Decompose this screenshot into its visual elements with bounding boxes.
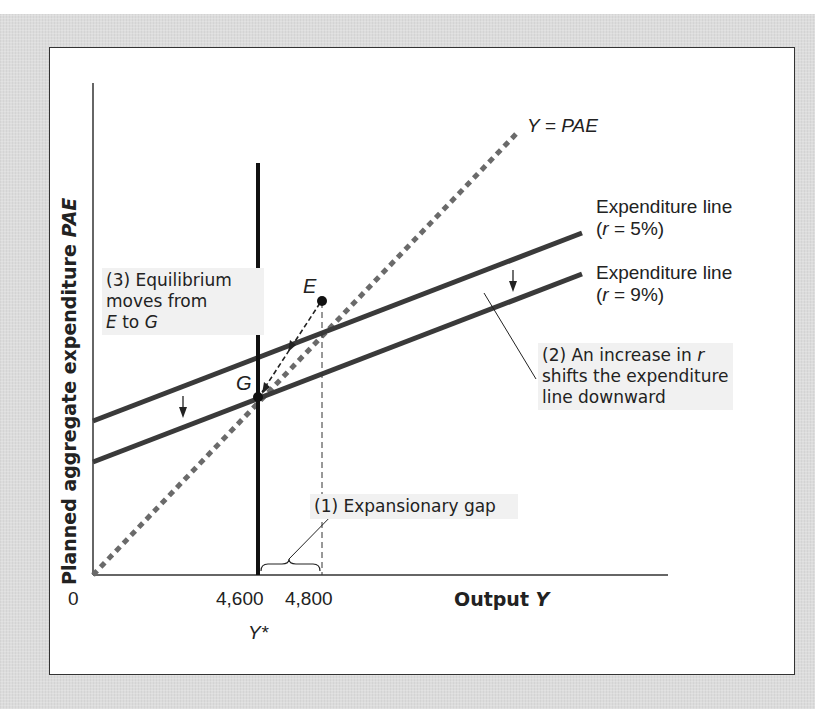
y-axis-label: Planned aggregate expenditure PAE [58,198,80,585]
note-expansionary-gap: (1) Expansionary gap [310,494,518,519]
x-axis-label: Output Y [454,588,549,610]
point-e [317,296,327,306]
gap-brace [261,559,320,571]
x-tick-4600: 4,600 [216,588,264,610]
note-increase-in-r: (2) An increase in r shifts the expendit… [538,343,733,410]
arrowhead-icon [509,281,517,292]
point-g-label: G [236,372,252,394]
x-tick-4800: 4,800 [285,588,333,610]
x-tick-0: 0 [68,588,79,610]
note-equilibrium-moves: (3) Equilibrium moves from E to G [102,268,264,335]
note2-leader [484,293,536,379]
line2-label: Expenditure line (r = 9%) [596,262,732,306]
point-e-label: E [303,275,316,297]
line1-label: Expenditure line (r = 5%) [596,196,732,240]
y-star-label: Y* [248,622,268,644]
point-g [253,392,263,402]
diagonal-label: Y = PAE [527,115,598,137]
arrowhead-icon [179,407,187,418]
